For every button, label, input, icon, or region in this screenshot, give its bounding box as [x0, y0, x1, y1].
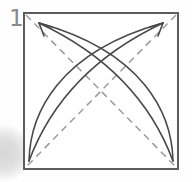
origami-step-diagram	[0, 0, 192, 182]
origami-instruction-page: 1	[0, 0, 192, 182]
